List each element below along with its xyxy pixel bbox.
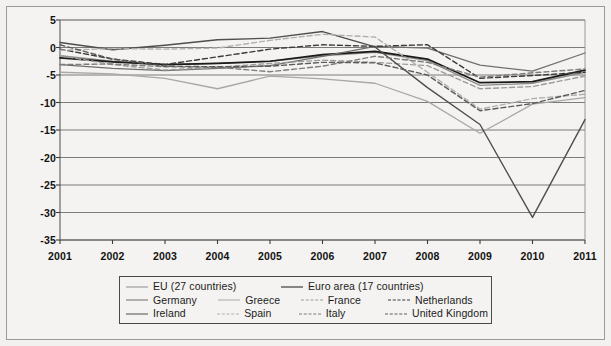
x-tick-label: 2007 (349, 250, 401, 262)
x-tick-label: 2005 (244, 250, 296, 262)
legend-line-swatch-spain (217, 309, 239, 319)
x-tick-label: 2004 (192, 250, 244, 262)
x-tick-label: 2011 (559, 250, 611, 262)
chart-legend: EU (27 countries)Euro area (17 countries… (119, 276, 492, 324)
legend-item-ireland[interactable]: Ireland (126, 308, 217, 319)
x-tick-label: 2006 (297, 250, 349, 262)
legend-label: Netherlands (415, 295, 473, 306)
x-tick-label: 2009 (454, 250, 506, 262)
legend-item-germany[interactable]: Germany (126, 295, 218, 306)
legend-item-euro-area-17[interactable]: Euro area (17 countries) (281, 281, 481, 292)
legend-label: EU (27 countries) (153, 281, 236, 292)
legend-item-eu-27[interactable]: EU (27 countries) (126, 281, 281, 292)
legend-row: EU (27 countries)Euro area (17 countries… (126, 280, 485, 294)
legend-label: Greece (245, 295, 280, 306)
legend-item-netherlands[interactable]: Netherlands (388, 295, 485, 306)
legend-label: Spain (244, 308, 271, 319)
legend-label: Euro area (17 countries) (308, 281, 424, 292)
legend-item-france[interactable]: France (301, 295, 388, 306)
legend-label: Ireland (153, 308, 186, 319)
legend-label: Germany (153, 295, 197, 306)
legend-item-italy[interactable]: Italy (299, 308, 385, 319)
legend-item-united-kingdom[interactable]: United Kingdom (385, 308, 485, 319)
legend-label: United Kingdom (412, 308, 488, 319)
x-tick-label: 2001 (34, 250, 86, 262)
x-tick-label: 2002 (87, 250, 139, 262)
legend-label: Italy (326, 308, 346, 319)
legend-line-swatch-eu-27 (126, 282, 148, 292)
x-tick-label: 2003 (139, 250, 191, 262)
x-tick-label: 2010 (507, 250, 559, 262)
legend-line-swatch-italy (299, 309, 321, 319)
legend-item-greece[interactable]: Greece (218, 295, 300, 306)
legend-line-swatch-greece (218, 295, 240, 305)
legend-line-swatch-euro-area-17 (281, 282, 303, 292)
legend-label: France (328, 295, 361, 306)
legend-line-swatch-france (301, 295, 323, 305)
legend-row: IrelandSpainItalyUnited Kingdom (126, 307, 485, 321)
legend-line-swatch-germany (126, 295, 148, 305)
x-tick-label: 2008 (402, 250, 454, 262)
legend-row: GermanyGreeceFranceNetherlands (126, 294, 485, 308)
legend-line-swatch-ireland (126, 309, 148, 319)
legend-line-swatch-netherlands (388, 295, 410, 305)
chart-figure: 50-5-10-15-20-25-30-35 20012002200320042… (0, 0, 611, 346)
legend-item-spain[interactable]: Spain (217, 308, 299, 319)
legend-line-swatch-united-kingdom (385, 309, 407, 319)
